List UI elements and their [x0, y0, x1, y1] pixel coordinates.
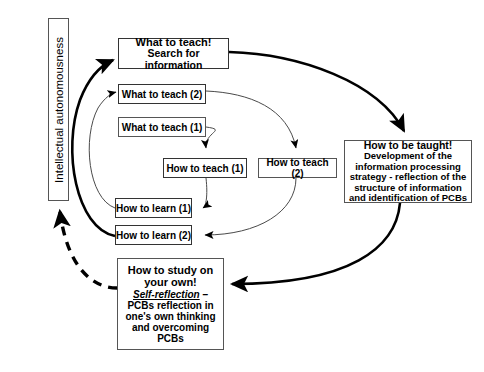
node-how-to-learn-2[interactable]: How to learn (2)	[115, 225, 192, 245]
node-how-to-teach-2-label: How to teach (2)	[259, 157, 336, 179]
axis-label-intellectual-autonomousness: Intellectual autonomousness	[48, 18, 69, 201]
edge-how-to-learn-1-to-what-to-teach-2	[89, 92, 116, 208]
node-what-to-teach-main-subtitle: Search for information	[119, 48, 228, 72]
edge-how-to-study-to-autonomousness	[60, 212, 117, 288]
node-how-to-learn-1[interactable]: How to learn (1)	[115, 198, 192, 218]
node-how-to-study-self-reflection-dash: –	[200, 289, 208, 300]
node-what-to-teach-1-label: What to teach (1)	[122, 122, 203, 133]
node-how-to-study-self-reflection-underline: Self-reflection	[133, 289, 200, 300]
edge-what-to-teach-2-to-how-to-teach-2	[206, 91, 296, 148]
node-how-to-study-on-your-own[interactable]: How to study on your own! Self-reflectio…	[117, 258, 224, 350]
edge-how-to-learn-2-to-what-to-teach-main	[72, 60, 115, 236]
node-what-to-teach-main[interactable]: What to teach! Search for information	[118, 38, 229, 69]
node-what-to-teach-1[interactable]: What to teach (1)	[118, 117, 206, 137]
edge-how-to-teach-1-to-how-to-learn-1	[203, 178, 207, 208]
axis-label-text: Intellectual autonomousness	[53, 37, 65, 183]
node-how-to-teach-1[interactable]: How to teach (1)	[163, 158, 247, 178]
node-how-to-study-title-line-1: How to study on	[128, 264, 214, 276]
node-what-to-teach-2[interactable]: What to teach (2)	[118, 84, 206, 104]
edge-what-to-teach-1-to-how-to-teach-1	[206, 127, 215, 148]
node-how-to-teach-1-label: How to teach (1)	[166, 163, 243, 174]
node-how-to-learn-2-label: How to learn (2)	[116, 230, 191, 241]
node-what-to-teach-2-label: What to teach (2)	[122, 89, 203, 100]
node-how-to-study-body: PCBs reflection in one's own thinking an…	[118, 300, 223, 345]
edge-what-to-teach-main-to-how-to-be-taught	[229, 52, 404, 131]
node-how-to-be-taught-body: Development of the information processin…	[346, 151, 470, 203]
node-how-to-study-title-line-2: your own!	[144, 276, 197, 288]
edge-how-to-teach-2-to-how-to-learn-2	[205, 178, 296, 235]
edge-how-to-be-taught-to-how-to-study	[232, 203, 400, 284]
node-how-to-be-taught[interactable]: How to be taught! Development of the inf…	[344, 140, 472, 203]
node-how-to-learn-1-label: How to learn (1)	[116, 203, 191, 214]
diagram-canvas: Intellectual autonomousness What to teac…	[0, 0, 484, 372]
node-how-to-teach-2[interactable]: How to teach (2)	[258, 158, 337, 178]
node-how-to-study-self-reflection: Self-reflection –	[133, 289, 208, 300]
